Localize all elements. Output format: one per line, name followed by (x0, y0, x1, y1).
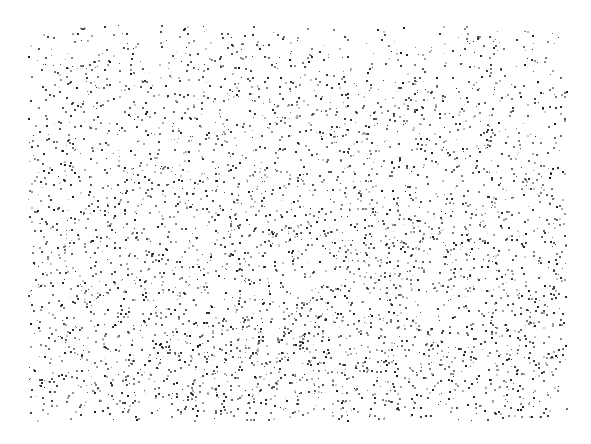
scatter-plot-canvas (0, 0, 591, 444)
figure-root (0, 0, 591, 444)
